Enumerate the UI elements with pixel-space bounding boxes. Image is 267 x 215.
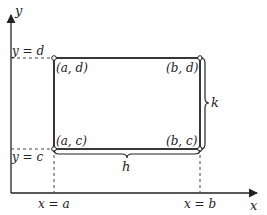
corner-point-a-d — [52, 56, 57, 61]
label-x-equals-a: x = a — [38, 197, 70, 211]
brace-h — [54, 150, 200, 158]
corner-label-b-c: (b, c) — [166, 134, 198, 148]
height-label-k: k — [211, 95, 219, 110]
width-label-h: h — [122, 159, 130, 174]
corner-label-a-c: (a, c) — [56, 134, 87, 148]
rectangle-diagram: y x y = d y = c x = a x = b (a, d) (b, d… — [0, 0, 267, 215]
corner-label-b-d: (b, d) — [166, 61, 199, 75]
y-axis-label: y — [14, 3, 23, 18]
label-y-equals-c: y = c — [11, 150, 43, 164]
brace-k — [201, 58, 209, 149]
corner-label-a-d: (a, d) — [56, 61, 88, 75]
label-x-equals-b: x = b — [184, 197, 216, 211]
label-y-equals-d: y = d — [11, 44, 44, 58]
x-axis-label: x — [250, 198, 258, 213]
